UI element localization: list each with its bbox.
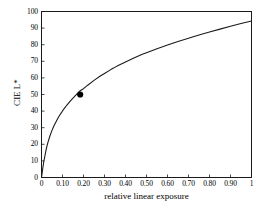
x-tick-label: 0.50 bbox=[140, 179, 153, 189]
x-tick-label: 0.90 bbox=[224, 179, 237, 189]
x-tick-label: 0.70 bbox=[182, 179, 195, 189]
y-tick-label: 10 bbox=[14, 157, 38, 165]
x-tick-label: 0.20 bbox=[77, 179, 90, 189]
x-tick-label: 0.80 bbox=[203, 179, 216, 189]
x-tick-label: 0.60 bbox=[161, 179, 174, 189]
x-tick-label: 0.40 bbox=[119, 179, 132, 189]
x-axis-tick-labels: 00.100.200.300.400.500.600.700.800.901 bbox=[0, 179, 266, 191]
x-tick-label: 0.10 bbox=[56, 179, 69, 189]
plot-area-frame bbox=[41, 11, 252, 178]
x-tick-label: 0 bbox=[40, 179, 44, 189]
x-tick-label: 1 bbox=[250, 179, 254, 189]
x-tick-label: 0.30 bbox=[98, 179, 111, 189]
y-axis-title: CIE L* bbox=[12, 38, 23, 148]
y-tick-label: 90 bbox=[14, 24, 38, 32]
x-axis-title: relative linear exposure bbox=[41, 191, 252, 202]
chart-figure: 0102030405060708090100 00.100.200.300.40… bbox=[0, 0, 266, 213]
y-tick-label: 100 bbox=[14, 8, 38, 16]
